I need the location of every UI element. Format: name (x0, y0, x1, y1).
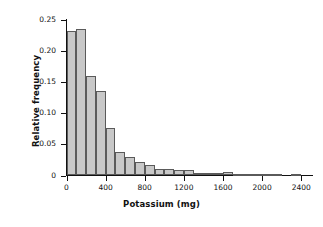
x-tick (145, 176, 146, 181)
histogram-bar (213, 173, 223, 175)
histogram-bar (272, 174, 282, 176)
y-tick (61, 51, 66, 52)
x-tick (262, 176, 263, 181)
x-tick-label: 2400 (281, 183, 321, 192)
histogram-bar (243, 174, 253, 176)
y-tick-label: 0.10 (0, 108, 56, 117)
x-tick-label: 2000 (242, 183, 282, 192)
histogram-bar (145, 165, 155, 176)
y-tick (61, 144, 66, 145)
x-tick (223, 176, 224, 181)
x-tick-label: 400 (86, 183, 126, 192)
histogram-bar (223, 172, 233, 175)
y-tick (61, 176, 66, 177)
histogram-bar (291, 174, 301, 176)
histogram-bar (125, 157, 135, 176)
histogram-bar (115, 152, 125, 176)
y-tick (61, 20, 66, 21)
histogram-bar (203, 173, 213, 175)
y-tick (61, 113, 66, 114)
y-tick-label: 0.20 (0, 46, 56, 55)
x-tick-label: 1600 (203, 183, 243, 192)
x-tick (301, 176, 302, 181)
histogram-bar (184, 170, 194, 176)
x-tick-label: 1200 (164, 183, 204, 192)
histogram-bar (174, 170, 184, 176)
x-tick (67, 176, 68, 181)
histogram-figure: Relative frequency Potassium (mg) 00.050… (0, 0, 323, 227)
histogram-bar (67, 31, 77, 176)
histogram-bar (164, 169, 174, 176)
y-tick-label: 0.25 (0, 15, 56, 24)
histogram-bar (86, 76, 96, 176)
plot-area: 00.050.100.150.200.25 040080012001600200… (0, 0, 323, 227)
histogram-bar (262, 174, 272, 176)
histogram-bar (155, 169, 165, 175)
y-tick-label: 0.15 (0, 77, 56, 86)
y-tick (61, 82, 66, 83)
y-tick-label: 0 (0, 171, 56, 180)
histogram-bar (96, 91, 106, 175)
x-tick (184, 176, 185, 181)
x-tick-label: 0 (47, 183, 87, 192)
y-tick-label: 0.05 (0, 139, 56, 148)
histogram-bar (252, 174, 262, 176)
histogram-bar (76, 29, 86, 176)
histogram-bar (233, 174, 243, 176)
histogram-bar (194, 173, 204, 175)
x-tick-label: 800 (125, 183, 165, 192)
x-tick (106, 176, 107, 181)
histogram-bar (106, 128, 116, 175)
histogram-bar (135, 162, 145, 175)
